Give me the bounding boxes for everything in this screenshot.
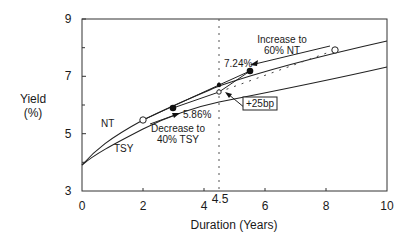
x-tick-label: 4 <box>201 199 208 213</box>
arrowhead-icon <box>225 92 232 98</box>
plot-frame <box>82 19 387 191</box>
blend-dotted-line <box>219 50 335 92</box>
y-axis-title-line2: (%) <box>24 106 43 120</box>
nt-label: NT <box>101 118 114 129</box>
x-axis-title: Duration (Years) <box>191 218 278 232</box>
x-tick-label: 2 <box>140 199 147 213</box>
open-point-marker <box>332 47 338 53</box>
x-tick-label: 8 <box>323 199 330 213</box>
x-tick-label: 6 <box>262 199 269 213</box>
filled-point-marker <box>217 83 221 87</box>
yield-curve-chart: 9 7 5 3 0 2 4 6 8 10 4.5 Yield (%) Durat… <box>0 0 413 246</box>
bp-label: +25bp <box>246 98 275 109</box>
decrease-label-line2: 40% TSY <box>157 134 199 145</box>
y-tick-label: 5 <box>65 127 72 141</box>
tsy-label: TSY <box>114 143 134 154</box>
x-tick-label: 10 <box>380 199 394 213</box>
increase-label-line2: 60% NT <box>264 45 300 56</box>
open-point-marker <box>217 90 221 94</box>
arrowhead-icon <box>172 113 180 118</box>
point-label-5-86: 5.86% <box>183 109 211 120</box>
decrease-label-line1: Decrease to <box>151 123 205 134</box>
y-tick-label: 3 <box>65 184 72 198</box>
y-axis-title-line1: Yield <box>20 92 46 106</box>
y-tick-label: 9 <box>65 12 72 26</box>
increase-label-line1: Increase to <box>257 34 307 45</box>
y-axis <box>82 19 86 162</box>
filled-point-marker <box>170 105 177 112</box>
x-tick-label: 0 <box>79 199 86 213</box>
reference-line-label: 4.5 <box>212 192 229 206</box>
y-tick-label: 7 <box>65 69 72 83</box>
open-point-marker <box>140 117 146 123</box>
point-label-7-24: 7.24% <box>224 58 252 69</box>
